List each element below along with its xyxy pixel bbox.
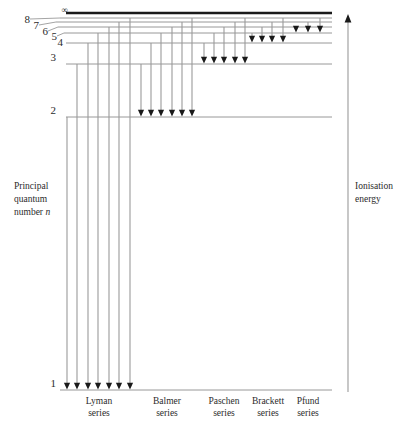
energy-level-diagram: ∞87654321 LymanseriesBalmerseriesPaschen… (0, 0, 408, 433)
series-label-pfund: Pfundseries (274, 395, 342, 419)
level-label-infinity: ∞ (50, 6, 68, 15)
pqn-symbol: n (45, 207, 50, 217)
series-label-word: series (274, 407, 342, 419)
pqn-line-3-text: number (14, 207, 43, 217)
pqn-line-3: number n (14, 206, 84, 219)
series-label-name: Pfund (297, 396, 320, 406)
series-label-name: Balmer (153, 396, 181, 406)
series-label-lyman: Lymanseries (65, 395, 133, 419)
ionisation-line-1: Ionisation (355, 180, 408, 193)
ionisation-energy-label: Ionisation energy (355, 180, 408, 206)
pqn-line-2: quantum (14, 193, 84, 206)
pqn-line-1: Principal (14, 180, 84, 193)
level-label-4: 4 (45, 37, 63, 48)
series-label-name: Lyman (86, 396, 112, 406)
ionisation-line-2: energy (355, 193, 408, 206)
series-label-word: series (65, 407, 133, 419)
principal-quantum-number-label: Principal quantum number n (14, 180, 84, 219)
level-label-1: 1 (38, 378, 56, 389)
level-label-2: 2 (38, 105, 56, 116)
level-label-3: 3 (38, 52, 56, 63)
